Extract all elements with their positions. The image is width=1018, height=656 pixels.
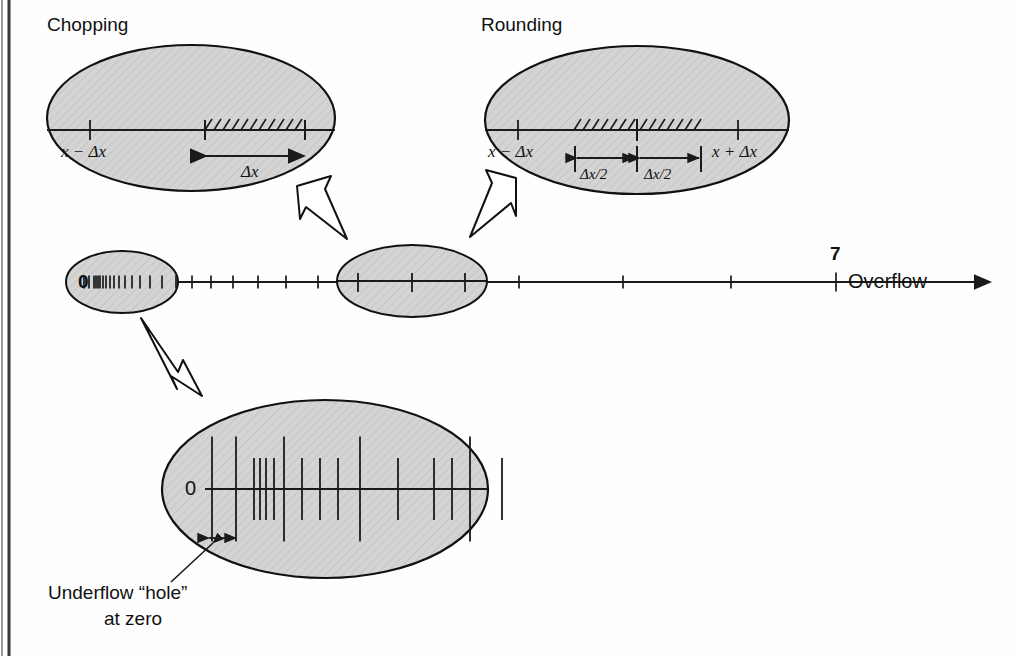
- rounding-title: Rounding: [481, 14, 562, 36]
- rounding-right-tick-label: x + Δx: [712, 142, 757, 162]
- rounding-half-label-right: Δx/2: [644, 166, 671, 183]
- underflow-pointer-line: [171, 543, 213, 582]
- overflow-label: Overflow: [848, 270, 927, 293]
- underflow-detail-group: [162, 400, 502, 582]
- callout-arrow-to-rounding: [470, 170, 516, 237]
- diagram-svg: [0, 0, 1018, 656]
- rounding-ellipse-group: [485, 46, 789, 194]
- rounding-left-tick-label: x − Δx: [488, 142, 533, 162]
- chopping-interval-label: Δx: [241, 162, 259, 182]
- chopping-title: Chopping: [47, 14, 128, 36]
- zero-label-main: 0: [78, 271, 89, 293]
- callout-arrow-to-chopping: [297, 176, 347, 239]
- chopping-ellipse: [47, 45, 335, 191]
- overflow-tick-label: 7: [830, 243, 841, 265]
- underflow-caption-line2: at zero: [104, 608, 162, 630]
- callout-arrow-to-underflow: [141, 318, 202, 396]
- underflow-caption-line1: Underflow “hole”: [48, 582, 187, 604]
- rounding-half-label-left: Δx/2: [580, 166, 607, 183]
- chopping-left-tick-label: x − Δx: [61, 142, 106, 162]
- figure-canvas: Chopping Rounding x − Δx Δx x − Δx x + Δ…: [0, 0, 1018, 656]
- chopping-ellipse-group: [47, 45, 335, 191]
- zero-label-detail: 0: [185, 477, 196, 500]
